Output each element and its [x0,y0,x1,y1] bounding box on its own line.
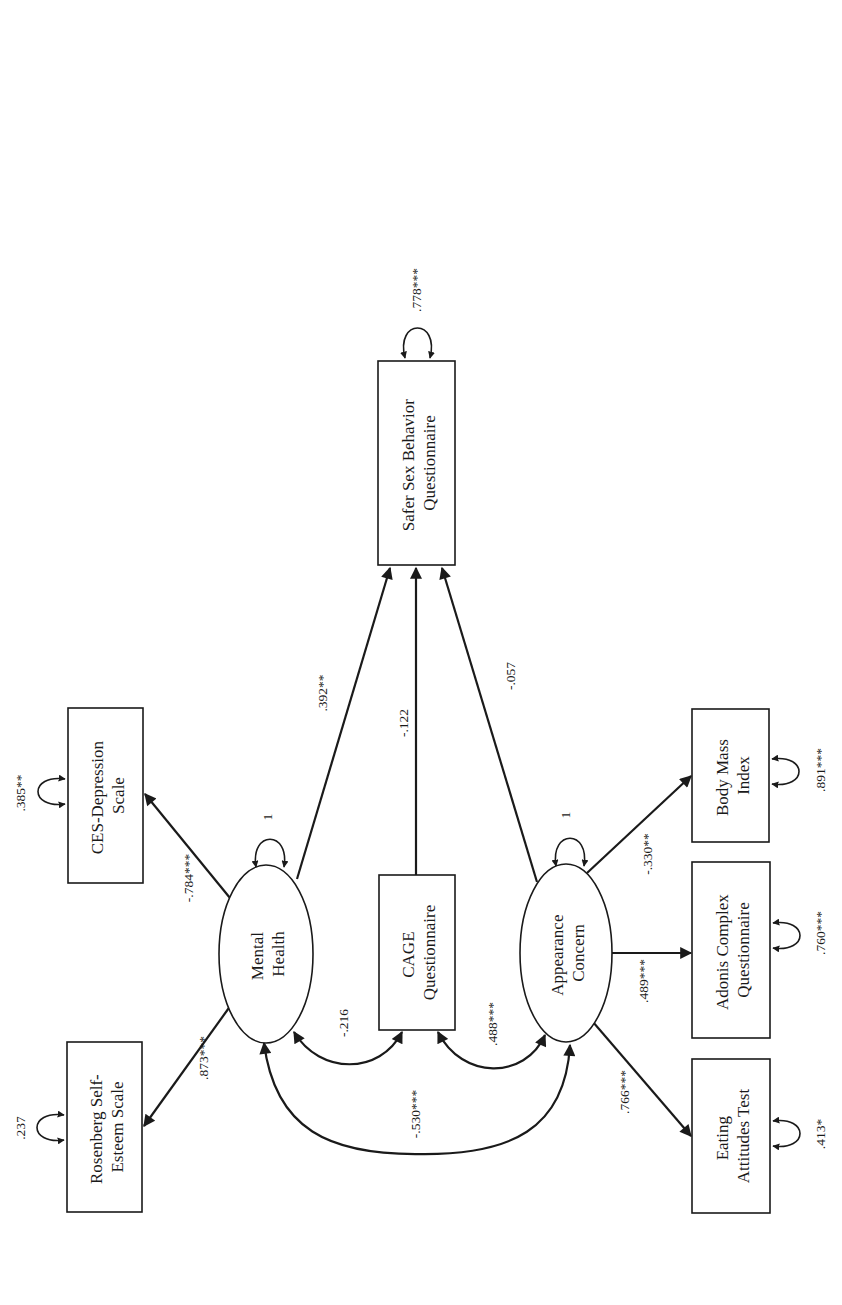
node-eating-attitudes-test: Eating Attitudes Test [692,1059,770,1213]
variance-loop-ces [38,779,65,805]
variance-loop-adonis [773,923,800,949]
node-label-line-1: Eating [713,1115,732,1160]
node-appearance-concern-latent: Appearance Concern [520,864,612,1042]
node-label-line-1: Appearance [548,915,567,996]
node-label-line-1: Mental [248,932,267,980]
node-label-line-1: Rosenberg Self- [87,1074,106,1184]
node-label-line-1: Body Mass [713,739,732,816]
variance-loop-safer-sex [404,328,432,358]
error-variance-label-rosenberg: .237 [13,1116,28,1140]
coef-label-ac-to-bmi: -.330** [640,833,655,875]
variance-loop-mental-health [255,839,284,867]
path-arrow-ac-to-eating [587,1015,691,1136]
coef-label-ac-to-safer-sex: -.057 [503,662,518,690]
coef-label-ac-to-eating: .766*** [617,1070,632,1114]
node-safer-sex-behavior-questionnaire: Safer Sex Behavior Questionnaire [378,361,455,565]
node-adonis-complex-questionnaire: Adonis Complex Questionnaire [692,862,770,1038]
node-label-line-2: Questionnaire [734,902,753,997]
variance-loop-bmi [772,759,799,785]
path-arrow-mh-to-rosenberg [144,1005,231,1126]
node-label-line-2: Scale [109,777,128,814]
coef-label-cov-mh-ac: -.530*** [408,1090,423,1139]
node-mental-health-latent: Mental Health [219,865,313,1043]
error-variance-label-adonis: .760*** [813,911,828,955]
error-variance-label-bmi: .891*** [813,748,828,792]
node-label-line-2: Index [734,756,753,795]
error-variance-label-safer-sex: .778*** [409,268,424,312]
node-ces-depression-scale: CES-Depression Scale [68,708,143,883]
coef-label-cage-to-safer-sex: -.122 [396,709,411,737]
variance-loop-eating [773,1121,800,1147]
coef-label-mh-to-ces: -.784*** [181,854,196,903]
error-variance-label-ces: .385** [13,774,28,811]
node-label-line-2: Health [269,931,288,977]
coef-label-cov-cage-ac: .488*** [485,1002,500,1046]
path-edges [144,568,691,1136]
node-label-line-2: Questionnaire [420,415,439,510]
variance-loop-rosenberg [37,1115,64,1141]
node-label-line-2: Esteem Scale [108,1081,127,1172]
node-label-line-1: CES-Depression [88,740,107,854]
path-arrow-ac-to-bmi [587,776,691,873]
node-rosenberg-self-esteem-scale: Rosenberg Self- Esteem Scale [67,1042,142,1212]
node-label-line-2: Concern [569,924,588,982]
variance-label-mental-health: 1 [260,814,275,821]
node-cage-questionnaire: CAGE Questionnaire [379,875,455,1030]
node-label-line-2: Questionnaire [420,905,439,1000]
sem-diagram: Rosenberg Self- Esteem Scale CES-Depress… [0,0,842,1305]
node-label-line-1: Adonis Complex [713,894,732,1010]
node-label-line-2: Attitudes Test [734,1089,753,1184]
coef-label-mh-to-rosenberg: .873*** [196,1036,211,1080]
path-arrow-mh-to-safer-sex [297,568,390,879]
coef-label-ac-to-adonis: .489*** [636,959,651,1003]
node-body-mass-index: Body Mass Index [692,709,769,842]
node-label-line-1: CAGE [399,931,418,977]
error-variance-label-eating: .413* [813,1119,828,1150]
coef-label-mh-to-safer-sex: .392** [315,674,330,711]
coef-label-cov-mh-cage: -.216 [336,1009,351,1037]
path-arrow-ac-to-safer-sex [442,568,537,882]
variance-label-appearance: 1 [558,812,573,819]
node-label-line-1: Safer Sex Behavior [399,399,418,532]
variance-loop-appearance [555,838,584,866]
